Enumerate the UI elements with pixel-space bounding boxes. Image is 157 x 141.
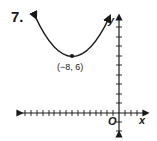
origin-label: O xyxy=(108,115,117,127)
vertex-label: (−8, 6) xyxy=(57,62,83,72)
parabola-curve xyxy=(35,16,109,57)
x-axis-label: x xyxy=(138,114,146,126)
parabola-graph: (−8, 6) y x O xyxy=(0,0,157,141)
y-axis-label: y xyxy=(107,14,115,26)
vertex-point xyxy=(70,54,74,58)
